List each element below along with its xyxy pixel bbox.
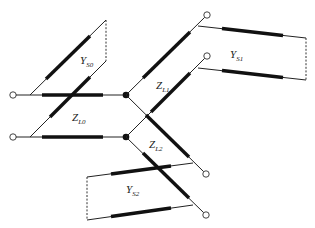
zl1-branch: [126, 12, 210, 137]
terminal-zl2-bottom[interactable]: [203, 212, 209, 218]
zl2-branch: [126, 95, 209, 218]
label-ys2: YS2: [126, 183, 140, 198]
terminal-zl1-bottom[interactable]: [204, 53, 210, 59]
label-zl1: ZL1: [156, 79, 170, 94]
terminal-left-bottom[interactable]: [10, 134, 16, 140]
terminal-left-top[interactable]: [10, 92, 16, 98]
label-ys1: YS1: [230, 48, 243, 63]
ys1-branch: [198, 26, 306, 80]
ys0-branch: [30, 20, 106, 137]
ys2-branch: [87, 163, 193, 220]
label-ys0: YS0: [80, 54, 94, 69]
label-zl2: ZL2: [149, 138, 163, 153]
terminal-zl2-top[interactable]: [203, 171, 209, 177]
circuit-diagram: YS0 ZL0 ZL1 YS1 ZL2 YS2: [0, 0, 315, 228]
label-zl0: ZL0: [72, 111, 86, 126]
terminal-zl1-top[interactable]: [204, 12, 210, 18]
